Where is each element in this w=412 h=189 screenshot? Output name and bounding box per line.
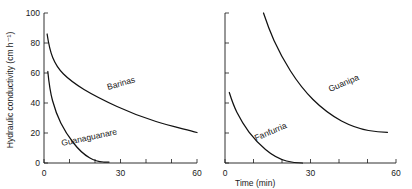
y-tick-60: 60 (31, 68, 41, 78)
right-x-ticks (225, 159, 396, 163)
x-tick-30-left: 30 (116, 168, 126, 178)
label-guanaguanare: Guanaguanare (60, 126, 118, 148)
right-panel: 0 30 60 Guanipa Fanfurria (223, 13, 401, 178)
label-fanfurria: Fanfurria (253, 120, 288, 143)
y-tick-0: 0 (35, 158, 40, 168)
right-y-ticks (225, 13, 229, 163)
x-tick-30-right: 30 (306, 168, 316, 178)
y-tick-100: 100 (26, 8, 40, 18)
x-axis-title: Time (min) (235, 178, 275, 188)
y-tick-20: 20 (31, 128, 41, 138)
right-x-tick-labels: 0 30 60 (223, 168, 401, 178)
y-tick-80: 80 (31, 38, 41, 48)
left-panel: 100 80 60 40 20 0 0 30 60 Barinas G (26, 8, 202, 178)
y-tick-40: 40 (31, 98, 41, 108)
x-tick-60-right: 60 (391, 168, 401, 178)
x-tick-0-left: 0 (42, 168, 47, 178)
label-guanipa: Guanipa (327, 72, 361, 94)
x-tick-60-left: 60 (192, 168, 202, 178)
curve-guanipa (264, 13, 388, 132)
left-x-tick-labels: 0 30 60 (42, 168, 202, 178)
label-barinas: Barinas (106, 74, 136, 92)
left-y-tick-labels: 100 80 60 40 20 0 (26, 8, 40, 168)
figure: Hydraulic conductivity (cm h⁻¹) 100 80 6… (0, 0, 412, 189)
x-tick-0-right: 0 (223, 168, 228, 178)
y-axis-title: Hydraulic conductivity (cm h⁻¹) (5, 32, 15, 149)
left-x-ticks (44, 159, 197, 163)
curve-guanaguanare (48, 72, 109, 163)
chart-svg: Hydraulic conductivity (cm h⁻¹) 100 80 6… (0, 0, 412, 189)
